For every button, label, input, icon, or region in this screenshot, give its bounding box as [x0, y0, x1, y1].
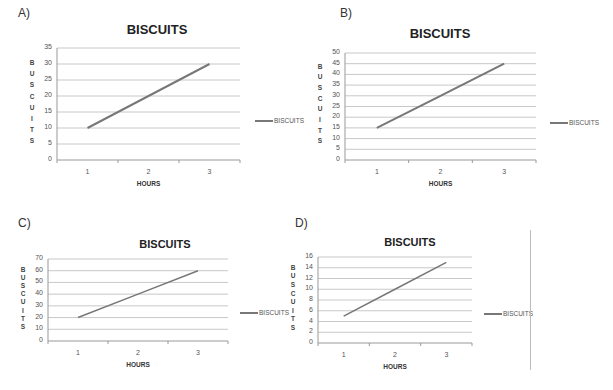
y-tick-label: 12 [297, 274, 313, 281]
x-axis-title: HOURS [365, 363, 425, 370]
y-tick-label: 10 [297, 284, 313, 291]
y-axis-title-letter: U [289, 298, 297, 307]
y-tick-label: 2 [297, 327, 313, 334]
y-axis-title-letter: U [289, 272, 297, 281]
x-tick-label: 2 [390, 351, 400, 358]
x-tick-label: 3 [441, 351, 451, 358]
y-tick-label: 0 [297, 338, 313, 345]
y-axis-title-letter: C [289, 290, 297, 299]
x-tick-label: 1 [339, 351, 349, 358]
y-tick-label: 14 [297, 263, 313, 270]
y-axis-title-letter: S [289, 281, 297, 290]
y-tick-label: 16 [297, 252, 313, 259]
y-tick-label: 4 [297, 317, 313, 324]
y-axis-title-letter: I [289, 307, 297, 316]
y-tick-label: 8 [297, 295, 313, 302]
y-axis-title-letter: B [289, 264, 297, 273]
y-axis-title-letter: S [289, 324, 297, 333]
y-axis-title: BUSCUITS [289, 264, 297, 333]
legend-label: BISCUITS [503, 310, 533, 317]
vertical-divider [530, 230, 531, 370]
chart-legend: BISCUITS [484, 310, 533, 317]
y-axis-title-letter: T [289, 315, 297, 324]
legend-line-swatch [484, 313, 502, 315]
y-tick-label: 6 [297, 306, 313, 313]
